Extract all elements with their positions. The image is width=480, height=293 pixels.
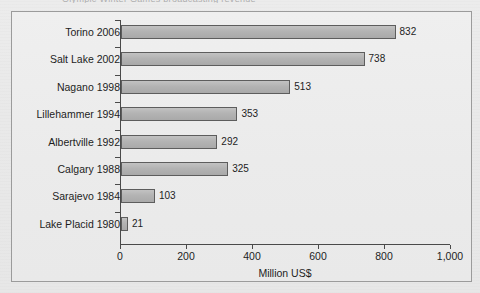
y-axis-tick <box>115 47 120 48</box>
category-label: Calgary 1988 <box>58 163 120 175</box>
bar-value-label: 353 <box>241 108 258 120</box>
x-axis-title: Million US$ <box>120 267 450 279</box>
bar-value-label: 738 <box>369 53 386 65</box>
bar-value-label: 103 <box>159 190 176 202</box>
bar <box>121 80 290 94</box>
category-label: Salt Lake 2002 <box>50 53 120 65</box>
cropped-title-fragment: Olympic Winter Games broadcasting revenu… <box>62 0 392 3</box>
x-axis-tick-label: 200 <box>177 250 195 262</box>
bar-value-label: 513 <box>294 81 311 93</box>
x-axis-line <box>120 244 450 245</box>
bar <box>121 52 365 66</box>
x-axis-tick <box>120 245 121 249</box>
x-axis-tick <box>450 245 451 249</box>
x-axis-tick-label: 800 <box>375 250 393 262</box>
x-axis-tick <box>318 245 319 249</box>
y-axis-tick <box>115 75 120 76</box>
bar-value-label: 292 <box>221 136 238 148</box>
bar-value-label: 832 <box>400 26 417 38</box>
bar <box>121 162 228 176</box>
y-axis-tick <box>115 157 120 158</box>
bar <box>121 25 396 39</box>
bar <box>121 217 128 231</box>
x-axis-tick-label: 600 <box>309 250 327 262</box>
category-label: Albertville 1992 <box>48 136 120 148</box>
chart-plot-area: Torino 2006Salt Lake 2002Nagano 1998Lill… <box>12 12 473 283</box>
y-axis-tick <box>115 20 120 21</box>
category-label: Nagano 1998 <box>57 81 120 93</box>
page-background: Olympic Winter Games broadcasting revenu… <box>0 0 480 293</box>
y-axis-tick <box>115 130 120 131</box>
chart-frame: Torino 2006Salt Lake 2002Nagano 1998Lill… <box>11 11 472 282</box>
x-axis-tick <box>186 245 187 249</box>
bar <box>121 189 155 203</box>
bar <box>121 107 237 121</box>
bar-value-label: 21 <box>132 218 143 230</box>
category-label: Lake Placid 1980 <box>39 218 120 230</box>
category-label: Sarajevo 1984 <box>52 190 120 202</box>
y-axis-tick <box>115 212 120 213</box>
x-axis-tick-label: 0 <box>117 250 123 262</box>
bar-value-label: 325 <box>232 163 249 175</box>
x-axis-tick <box>384 245 385 249</box>
bar <box>121 135 217 149</box>
y-axis-tick <box>115 102 120 103</box>
category-label: Torino 2006 <box>65 26 120 38</box>
x-axis-tick-label: 1,000 <box>437 250 463 262</box>
x-axis-tick <box>252 245 253 249</box>
x-axis-tick-label: 400 <box>243 250 261 262</box>
category-label: Lillehammer 1994 <box>37 108 120 120</box>
y-axis-tick <box>115 184 120 185</box>
